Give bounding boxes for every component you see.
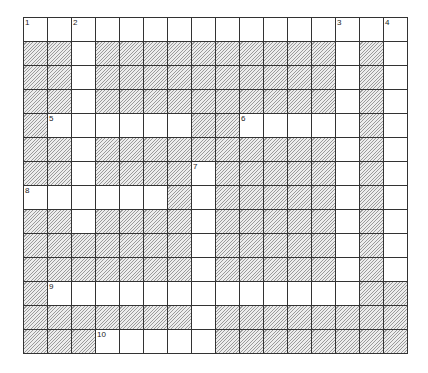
blocked-cell — [312, 306, 336, 330]
answer-cell[interactable] — [384, 66, 408, 90]
blocked-cell — [168, 234, 192, 258]
blocked-cell — [144, 258, 168, 282]
answer-cell[interactable] — [336, 66, 360, 90]
answer-cell[interactable] — [96, 186, 120, 210]
answer-cell[interactable] — [192, 306, 216, 330]
answer-cell[interactable] — [96, 282, 120, 306]
blocked-cell — [312, 330, 336, 354]
answer-cell[interactable] — [192, 186, 216, 210]
answer-cell[interactable] — [384, 138, 408, 162]
answer-cell[interactable] — [72, 66, 96, 90]
answer-cell[interactable]: 6 — [240, 114, 264, 138]
answer-cell[interactable] — [384, 210, 408, 234]
answer-cell[interactable] — [384, 162, 408, 186]
answer-cell[interactable] — [192, 330, 216, 354]
answer-cell[interactable] — [216, 18, 240, 42]
answer-cell[interactable]: 7 — [192, 162, 216, 186]
answer-cell[interactable] — [384, 42, 408, 66]
answer-cell[interactable] — [264, 114, 288, 138]
blocked-cell — [288, 138, 312, 162]
answer-cell[interactable] — [120, 18, 144, 42]
answer-cell[interactable] — [72, 210, 96, 234]
answer-cell[interactable] — [72, 138, 96, 162]
answer-cell[interactable] — [72, 186, 96, 210]
answer-cell[interactable] — [288, 282, 312, 306]
answer-cell[interactable] — [168, 282, 192, 306]
blocked-cell — [72, 234, 96, 258]
answer-cell[interactable] — [360, 18, 384, 42]
answer-cell[interactable]: 8 — [24, 186, 48, 210]
answer-cell[interactable] — [288, 114, 312, 138]
answer-cell[interactable] — [72, 162, 96, 186]
answer-cell[interactable]: 9 — [48, 282, 72, 306]
answer-cell[interactable] — [384, 258, 408, 282]
answer-cell[interactable] — [240, 18, 264, 42]
answer-cell[interactable] — [312, 18, 336, 42]
blocked-cell — [312, 162, 336, 186]
answer-cell[interactable] — [384, 186, 408, 210]
answer-cell[interactable] — [144, 114, 168, 138]
answer-cell[interactable] — [144, 186, 168, 210]
answer-cell[interactable] — [72, 90, 96, 114]
answer-cell[interactable] — [336, 282, 360, 306]
answer-cell[interactable] — [336, 42, 360, 66]
blocked-cell — [96, 138, 120, 162]
answer-cell[interactable] — [120, 330, 144, 354]
answer-cell[interactable] — [192, 18, 216, 42]
answer-cell[interactable] — [240, 282, 264, 306]
answer-cell[interactable] — [264, 18, 288, 42]
answer-cell[interactable] — [144, 282, 168, 306]
answer-cell[interactable] — [192, 210, 216, 234]
answer-cell[interactable] — [312, 282, 336, 306]
blocked-cell — [144, 138, 168, 162]
answer-cell[interactable] — [144, 330, 168, 354]
answer-cell[interactable] — [336, 138, 360, 162]
answer-cell[interactable] — [120, 186, 144, 210]
answer-cell[interactable] — [168, 114, 192, 138]
answer-cell[interactable]: 5 — [48, 114, 72, 138]
answer-cell[interactable] — [48, 18, 72, 42]
answer-cell[interactable]: 4 — [384, 18, 408, 42]
answer-cell[interactable] — [96, 114, 120, 138]
answer-cell[interactable] — [336, 90, 360, 114]
answer-cell[interactable] — [336, 234, 360, 258]
answer-cell[interactable] — [336, 114, 360, 138]
blocked-cell — [216, 42, 240, 66]
answer-cell[interactable]: 10 — [96, 330, 120, 354]
answer-cell[interactable] — [72, 114, 96, 138]
answer-cell[interactable] — [384, 90, 408, 114]
answer-cell[interactable] — [264, 282, 288, 306]
answer-cell[interactable] — [168, 330, 192, 354]
answer-cell[interactable] — [336, 162, 360, 186]
clue-number: 7 — [193, 162, 197, 171]
blocked-cell — [144, 162, 168, 186]
blocked-cell — [192, 138, 216, 162]
answer-cell[interactable] — [384, 234, 408, 258]
answer-cell[interactable]: 2 — [72, 18, 96, 42]
answer-cell[interactable]: 1 — [24, 18, 48, 42]
answer-cell[interactable] — [72, 42, 96, 66]
answer-cell[interactable] — [192, 234, 216, 258]
answer-cell[interactable] — [192, 282, 216, 306]
answer-cell[interactable] — [336, 210, 360, 234]
blocked-cell — [192, 90, 216, 114]
answer-cell[interactable] — [192, 258, 216, 282]
answer-cell[interactable] — [96, 18, 120, 42]
blocked-cell — [264, 162, 288, 186]
answer-cell[interactable] — [336, 186, 360, 210]
answer-cell[interactable] — [144, 18, 168, 42]
answer-cell[interactable] — [336, 258, 360, 282]
answer-cell[interactable] — [72, 282, 96, 306]
answer-cell[interactable]: 3 — [336, 18, 360, 42]
blocked-cell — [312, 66, 336, 90]
answer-cell[interactable] — [120, 114, 144, 138]
answer-cell[interactable] — [120, 282, 144, 306]
answer-cell[interactable] — [216, 282, 240, 306]
answer-cell[interactable] — [384, 114, 408, 138]
answer-cell[interactable] — [48, 186, 72, 210]
answer-cell[interactable] — [312, 114, 336, 138]
answer-cell[interactable] — [168, 18, 192, 42]
blocked-cell — [192, 114, 216, 138]
blocked-cell — [96, 210, 120, 234]
answer-cell[interactable] — [288, 18, 312, 42]
